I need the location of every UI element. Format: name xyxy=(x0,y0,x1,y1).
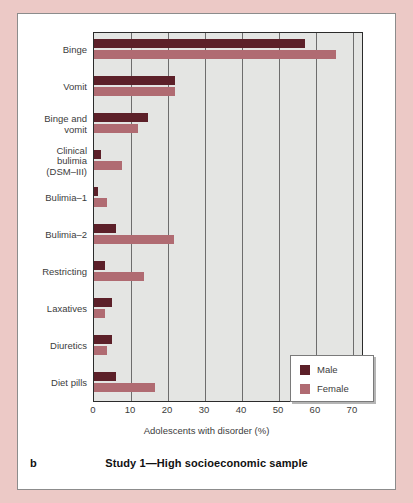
chart-legend: Male Female xyxy=(290,355,374,402)
bar-group xyxy=(94,218,362,255)
bar-female xyxy=(94,272,144,281)
x-tick-0: 0 xyxy=(90,404,95,415)
bar-group xyxy=(94,292,362,329)
legend-item-female: Female xyxy=(300,383,349,394)
y-axis-label-diet-pills: Diet pills xyxy=(15,378,87,389)
bar-group xyxy=(94,255,362,292)
bar-female xyxy=(94,309,105,318)
y-axis-label-bulimia-1: Bulimia–1 xyxy=(15,193,87,204)
y-axis-label-binge-and-vomit: Binge andvomit xyxy=(15,114,87,135)
bar-male xyxy=(94,150,101,159)
bar-male xyxy=(94,372,116,381)
bar-female xyxy=(94,383,155,392)
x-axis-title: Adolescents with disorder (%) xyxy=(18,425,395,436)
bar-group xyxy=(94,33,362,70)
x-axis-tick-labels: 010203040506070 xyxy=(93,404,363,418)
x-tick-40: 40 xyxy=(236,404,247,415)
y-axis-label-restricting: Restricting xyxy=(15,267,87,278)
x-tick-20: 20 xyxy=(162,404,173,415)
bar-group xyxy=(94,70,362,107)
bar-female xyxy=(94,161,122,170)
bar-male xyxy=(94,187,98,196)
bar-female xyxy=(94,198,107,207)
legend-label-female: Female xyxy=(317,383,349,394)
y-axis-category-labels: BingeVomitBinge andvomitClinicalbulimia(… xyxy=(18,32,91,402)
x-tick-50: 50 xyxy=(273,404,284,415)
y-axis-label-bulimia-2: Bulimia–2 xyxy=(15,230,87,241)
legend-swatch-male-icon xyxy=(300,365,310,375)
y-axis-label-diuretics: Diuretics xyxy=(15,341,87,352)
x-tick-30: 30 xyxy=(199,404,210,415)
y-axis-label-clinical-bulimia-dsm-iii: Clinicalbulimia(DSM–III) xyxy=(15,146,87,178)
bar-male xyxy=(94,261,105,270)
bar-male xyxy=(94,224,116,233)
y-axis-label-vomit: Vomit xyxy=(15,82,87,93)
bar-female xyxy=(94,50,336,59)
legend-swatch-female-icon xyxy=(300,384,310,394)
x-tick-70: 70 xyxy=(347,404,358,415)
y-axis-label-laxatives: Laxatives xyxy=(15,304,87,315)
bar-group xyxy=(94,181,362,218)
bar-male xyxy=(94,76,175,85)
legend-item-male: Male xyxy=(300,364,338,375)
bar-group xyxy=(94,144,362,181)
figure-caption: Study 1—High socioeconomic sample xyxy=(18,457,395,469)
bar-male xyxy=(94,298,112,307)
bar-group xyxy=(94,107,362,144)
bar-female xyxy=(94,346,107,355)
figure-panel: BingeVomitBinge andvomitClinicalbulimia(… xyxy=(17,13,396,490)
legend-label-male: Male xyxy=(317,364,338,375)
x-tick-60: 60 xyxy=(310,404,321,415)
y-axis-label-binge: Binge xyxy=(15,45,87,56)
plot-area: Male Female xyxy=(93,32,363,402)
x-tick-10: 10 xyxy=(125,404,136,415)
figure-caption-row: b Study 1—High socioeconomic sample xyxy=(18,457,395,477)
bar-male xyxy=(94,39,305,48)
bar-male xyxy=(94,335,112,344)
bar-female xyxy=(94,87,175,96)
bar-male xyxy=(94,113,148,122)
bar-female xyxy=(94,124,138,133)
bar-female xyxy=(94,235,174,244)
